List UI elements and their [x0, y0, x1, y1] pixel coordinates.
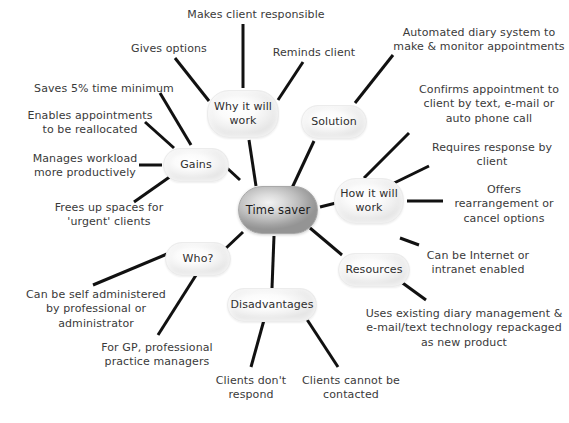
leaf-label-self-administered: Can be self administered by professional… — [22, 288, 170, 331]
leaf-label-internet-intranet: Can be Internet or intranet enabled — [414, 249, 542, 278]
branch-node-resources[interactable]: Resources — [338, 253, 410, 287]
connector-gains-saves — [160, 93, 191, 145]
leaf-label-gives-options: Gives options — [125, 42, 213, 56]
branch-node-who[interactable]: Who? — [165, 242, 231, 276]
leaf-label-requires-response: Requires response by client — [424, 141, 560, 170]
branch-node-solution[interactable]: Solution — [301, 105, 367, 139]
leaf-label-makes-client-responsible: Makes client responsible — [186, 8, 326, 22]
leaf-label-enables-appointments: Enables appointments to be reallocated — [23, 109, 157, 138]
leaf-label-clients-cannot-be-contacted: Clients cannot be contacted — [298, 374, 404, 403]
leaf-label-for-gp-professional: For GP, professional practice managers — [95, 341, 219, 370]
leaf-label-reminds-client: Reminds client — [268, 46, 360, 60]
connector-why-reminds-client — [278, 62, 303, 100]
connector-resources-internet — [400, 238, 419, 245]
connector-center-gains — [227, 168, 240, 180]
leaf-label-saves-5-percent: Saves 5% time minimum — [29, 82, 179, 96]
branch-node-gains[interactable]: Gains — [163, 148, 229, 182]
connector-center-why — [249, 140, 256, 186]
connector-center-resources — [310, 228, 342, 255]
leaf-label-uses-existing-diary: Uses existing diary management & e-mail/… — [362, 307, 566, 350]
connector-disadvantages-dont — [251, 320, 264, 367]
leaf-label-confirms-appointment: Confirms appointment to client by text, … — [410, 83, 568, 126]
branch-node-how[interactable]: How it will work — [334, 178, 404, 224]
leaf-label-clients-dont-respond: Clients don't respond — [209, 374, 293, 403]
branch-node-why[interactable]: Why it will work — [207, 90, 279, 138]
center-node-time-saver[interactable]: Time saver — [238, 186, 318, 234]
mindmap-canvas: Time saverWhy it will workSolutionHow it… — [0, 0, 569, 423]
connector-solution-automated — [355, 55, 393, 103]
connector-center-solution — [292, 141, 314, 188]
connector-who-self — [93, 254, 167, 285]
leaf-label-automated-diary-system: Automated diary system to make & monitor… — [392, 26, 566, 55]
leaf-label-frees-up-spaces: Frees up spaces for 'urgent' clients — [48, 201, 170, 230]
connector-disadvantages-cannot — [306, 318, 338, 367]
leaf-label-manages-workload: Manages workload more productively — [26, 152, 144, 181]
connector-how-confirms — [364, 133, 409, 178]
connector-center-disadvantages — [272, 236, 274, 288]
connector-why-gives-options — [175, 58, 209, 101]
branch-node-disadvantages[interactable]: Disadvantages — [227, 288, 317, 322]
leaf-label-offers-rearrangement: Offers rearrangement or cancel options — [443, 183, 565, 226]
